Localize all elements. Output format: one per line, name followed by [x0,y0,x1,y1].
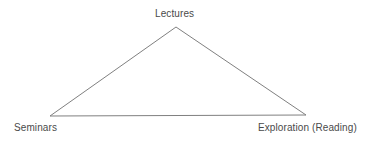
diagram-canvas: Lectures Seminars Exploration (Reading) [0,0,378,142]
vertex-label-seminars: Seminars [14,122,57,134]
triangle-outline [50,27,306,116]
vertex-label-lectures: Lectures [155,8,194,20]
triangle-shape [0,0,378,142]
vertex-label-exploration: Exploration (Reading) [258,122,357,134]
